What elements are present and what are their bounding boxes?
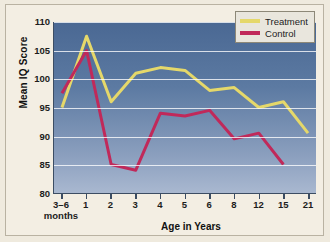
y-tick-label: 85 bbox=[22, 160, 50, 170]
y-tick-label: 100 bbox=[22, 74, 50, 84]
legend-swatch-icon bbox=[240, 19, 260, 23]
legend-label: Treatment bbox=[265, 16, 308, 27]
x-tick-label: 3 bbox=[132, 200, 137, 211]
legend-item: Treatment bbox=[240, 15, 308, 27]
x-tick-label-sub: months bbox=[44, 211, 78, 222]
legend-swatch-icon bbox=[240, 31, 260, 35]
legend-item: Control bbox=[240, 27, 308, 39]
x-axis-title: Age in Years bbox=[116, 221, 266, 232]
x-tick-label: 2 bbox=[108, 200, 113, 211]
y-tick-label: 90 bbox=[22, 132, 50, 142]
x-tick-label: 21 bbox=[303, 200, 314, 211]
x-tick-label: 12 bbox=[253, 200, 264, 211]
gridline bbox=[54, 165, 316, 166]
figure-frame: Mean IQ Score 80859095100105110 3–6month… bbox=[5, 4, 324, 236]
x-tick-label: 3–6months bbox=[44, 200, 78, 222]
x-tick-label: 8 bbox=[231, 200, 236, 211]
y-tick-label: 95 bbox=[22, 103, 50, 113]
y-axis-tick-labels: 80859095100105110 bbox=[18, 22, 50, 194]
x-tick-label: 1 bbox=[83, 200, 88, 211]
legend-label: Control bbox=[265, 28, 296, 39]
x-tick-label: 5 bbox=[182, 200, 187, 211]
gridline bbox=[54, 108, 316, 109]
y-tick-label: 110 bbox=[22, 17, 50, 27]
plot-area bbox=[53, 22, 316, 194]
x-tick-label: 4 bbox=[157, 200, 162, 211]
gridline bbox=[54, 137, 316, 138]
gridline bbox=[54, 79, 316, 80]
x-tick-label: 6 bbox=[207, 200, 212, 211]
x-tick-label: 15 bbox=[278, 200, 289, 211]
chart-figure: Mean IQ Score 80859095100105110 3–6month… bbox=[0, 0, 330, 242]
y-tick-label: 105 bbox=[22, 46, 50, 56]
y-tick-label: 80 bbox=[22, 189, 50, 199]
chart-legend: TreatmentControl bbox=[235, 11, 315, 43]
gridline bbox=[54, 51, 316, 52]
